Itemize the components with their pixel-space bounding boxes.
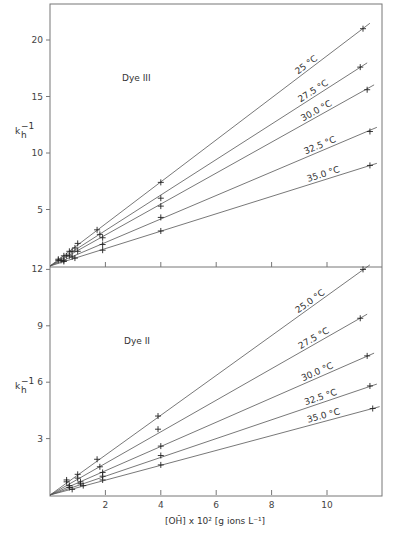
bottom-panel-series: 25.0 °C27.5 °C30.0 °C32.5 °C35.0 °C [50,265,380,495]
data-point-marker [367,162,373,168]
series-label: 32.5 °C [303,387,338,407]
y-tick-label: 5 [37,205,43,215]
fit-line [50,407,380,495]
data-point-marker [357,315,363,321]
data-point-marker [158,453,164,459]
data-point-marker [158,228,164,234]
fit-line [50,353,374,495]
x-tick-label: 8 [269,500,275,510]
svg-text:−1: −1 [21,376,34,386]
series-label: 32.5 °C [302,134,337,156]
fit-line [50,63,367,266]
x-tick-label: 6 [213,500,219,510]
y-tick-label: 10 [32,148,44,158]
data-point-marker [158,443,164,449]
fit-line [50,314,367,495]
top-panel-series: 25 °C27.5 °C30.0 °C32.5 °C35.0 °C [50,23,377,266]
bottom-y-axis-label: k h −1 [15,376,34,395]
top-y-axis-label: k h −1 [15,121,34,140]
svg-text:−1: −1 [21,121,34,131]
y-tick-label: 12 [32,264,43,274]
fit-line [50,163,377,266]
data-point-marker [94,456,100,462]
bottom-y-ticks: 36912 [32,264,50,443]
figure: 5101520 36912 246810 25 °C27.5 °C30.0 °C… [0,0,395,535]
x-tick-label: 2 [103,500,109,510]
top-y-ticks: 5101520 [32,35,50,215]
fit-line [50,384,377,495]
data-point-marker [155,413,161,419]
svg-text:h: h [21,130,27,140]
y-tick-label: 15 [32,92,43,102]
data-point-marker [367,383,373,389]
data-point-marker [370,406,376,412]
data-point-marker [97,464,103,470]
y-tick-label: 3 [37,434,43,444]
data-point-marker [155,426,161,432]
y-tick-label: 6 [37,377,43,387]
x-tick-label: 4 [158,500,164,510]
data-point-marker [364,353,370,359]
data-point-marker [158,203,164,209]
y-tick-label: 20 [32,35,44,45]
data-point-marker [158,462,164,468]
x-axis-label: [OH̄] x 10² [g ions L⁻¹] [165,515,265,526]
x-tick-label: 10 [321,500,333,510]
series-label: 35.0 °C [306,164,341,184]
data-point-marker [100,247,106,253]
series-label: 30.0 °C [300,360,335,383]
y-tick-label: 9 [37,321,43,331]
svg-text:h: h [21,385,27,395]
fit-line [50,265,370,495]
data-point-marker [357,64,363,70]
top-panel-annotation: Dye III [122,73,151,83]
data-point-marker [75,240,81,246]
fit-line [50,127,377,266]
bottom-panel-annotation: Dye II [124,336,150,346]
series-label: 25.0 °C [293,287,326,315]
